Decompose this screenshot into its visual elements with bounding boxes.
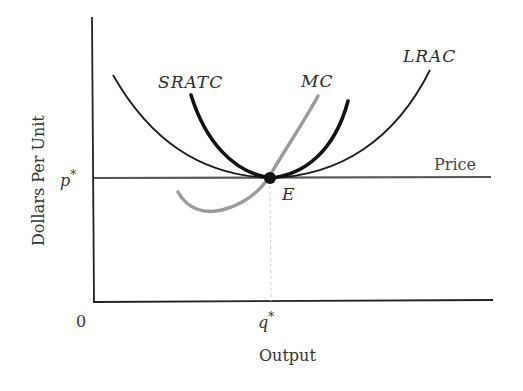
q-star-guide-line: [270, 180, 271, 301]
origin-label: 0: [76, 312, 86, 331]
equilibrium-label: E: [281, 184, 295, 204]
q-star-label: q*: [258, 310, 274, 332]
sratc-curve: [191, 95, 348, 178]
y-axis: [92, 17, 94, 302]
y-axis-title: Dollars Per Unit: [29, 115, 48, 246]
cost-curves-diagram: SRATC MC LRAC Price E p* q* 0 Output Dol…: [0, 0, 523, 391]
x-axis-title: Output: [259, 346, 316, 365]
p-star-label: p*: [60, 168, 76, 190]
lrac-label: LRAC: [402, 46, 456, 66]
price-line: [94, 177, 491, 178]
price-label: Price: [434, 155, 476, 174]
mc-label: MC: [300, 71, 333, 91]
x-axis: [93, 300, 493, 302]
sratc-label: SRATC: [158, 72, 223, 92]
equilibrium-point: [264, 172, 276, 184]
